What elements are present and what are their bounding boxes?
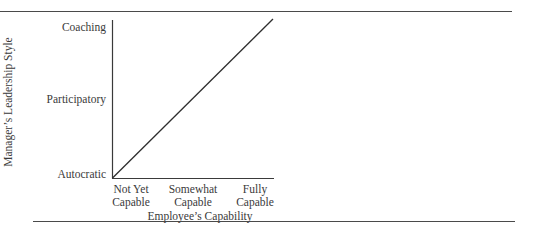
- x-tick-line1: Not Yet: [96, 183, 166, 196]
- y-tick-participatory: Participatory: [26, 93, 106, 106]
- trend-line: [113, 19, 274, 178]
- x-tick-fully-capable: Fully Capable: [220, 183, 290, 209]
- x-tick-somewhat-capable: Somewhat Capable: [158, 183, 228, 209]
- y-tick-coaching: Coaching: [26, 21, 106, 34]
- x-tick-line2: Capable: [220, 196, 290, 209]
- bottom-rule: [33, 221, 515, 222]
- x-tick-line2: Capable: [96, 196, 166, 209]
- y-axis-title: Manager’s Leadership Style: [2, 37, 14, 166]
- x-tick-line1: Fully: [220, 183, 290, 196]
- y-tick-autocratic: Autocratic: [26, 168, 106, 181]
- x-tick-line2: Capable: [158, 196, 228, 209]
- x-tick-line1: Somewhat: [158, 183, 228, 196]
- x-tick-not-yet-capable: Not Yet Capable: [96, 183, 166, 209]
